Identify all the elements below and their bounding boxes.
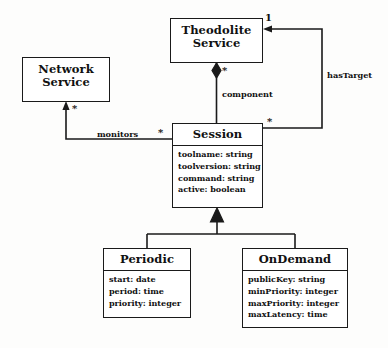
multiplicity-has-target-one: 1	[265, 13, 272, 23]
class-name-line: Network	[25, 63, 107, 76]
class-attributes-session: toolname: string toolversion: string com…	[173, 145, 262, 199]
attribute-row: toolversion: string	[178, 161, 262, 173]
attribute-row: command: string	[178, 173, 262, 185]
relationship-generalization	[147, 208, 295, 248]
class-box-theodolite-service[interactable]: Theodolite Service	[170, 18, 263, 63]
attribute-row: minPriority: integer	[248, 286, 347, 298]
class-attributes-ondemand: publicKey: string minPriority: integer m…	[243, 270, 347, 324]
class-name-network-service: Network Service	[23, 58, 109, 95]
class-box-session[interactable]: Session toolname: string toolversion: st…	[172, 123, 263, 208]
class-name-ondemand: OnDemand	[243, 249, 347, 270]
attribute-row: maxLatency: time	[248, 309, 347, 321]
attribute-row: active: boolean	[178, 184, 262, 196]
class-name-periodic: Periodic	[104, 249, 190, 270]
class-name-line: Theodolite	[173, 24, 260, 37]
class-name-line: Service	[25, 76, 107, 89]
uml-class-diagram: Theodolite Service Network Service Sessi…	[0, 0, 388, 348]
relationship-has-target	[263, 25, 322, 128]
multiplicity-component-star: *	[222, 66, 227, 76]
attribute-row: publicKey: string	[248, 274, 347, 286]
multiplicity-monitors-target-star: *	[72, 104, 77, 114]
class-box-network-service[interactable]: Network Service	[22, 57, 110, 102]
class-box-ondemand[interactable]: OnDemand publicKey: string minPriority: …	[242, 248, 348, 328]
edge-label-monitors: monitors	[97, 129, 138, 139]
multiplicity-has-target-star: *	[267, 117, 272, 127]
edge-label-component: component	[222, 89, 273, 99]
attribute-row: priority: integer	[109, 298, 190, 310]
class-name-session: Session	[173, 124, 262, 145]
edge-label-has-target: hasTarget	[327, 70, 372, 80]
class-box-periodic[interactable]: Periodic start: date period: time priori…	[103, 248, 191, 318]
attribute-row: toolname: string	[178, 149, 262, 161]
relationship-component	[212, 63, 221, 123]
attribute-row: start: date	[109, 274, 190, 286]
class-name-theodolite-service: Theodolite Service	[171, 19, 262, 56]
attribute-row: maxPriority: integer	[248, 298, 347, 310]
attribute-row: period: time	[109, 286, 190, 298]
multiplicity-monitors-source-star: *	[158, 128, 163, 138]
class-attributes-periodic: start: date period: time priority: integ…	[104, 270, 190, 312]
class-name-line: Service	[173, 37, 260, 50]
